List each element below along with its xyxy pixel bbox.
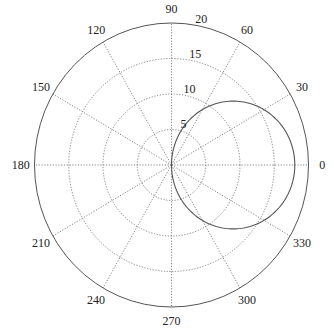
angle-tick-label: 270 — [163, 314, 181, 328]
angle-tick-label: 60 — [241, 23, 253, 37]
angle-tick-label: 90 — [166, 2, 178, 16]
angle-tick-label: 150 — [32, 80, 50, 94]
angle-tick-label: 240 — [87, 293, 105, 307]
angle-tick-label: 210 — [32, 236, 50, 250]
angular-grid-spoke — [172, 165, 241, 288]
angular-grid-spoke — [172, 42, 241, 165]
angle-tick-label: 0 — [319, 158, 325, 172]
angle-tick-label: 120 — [87, 23, 105, 37]
radial-tick-label: 5 — [180, 117, 186, 131]
radial-tick-label: 10 — [183, 82, 195, 96]
angle-tick-label: 300 — [238, 293, 256, 307]
radial-tick-label: 20 — [195, 12, 207, 26]
angular-grid-spoke — [103, 42, 172, 165]
angular-grid-spoke — [53, 165, 172, 236]
angle-tick-label: 330 — [293, 236, 311, 250]
angular-grid-spoke — [103, 165, 172, 288]
angle-tick-label: 30 — [296, 80, 308, 94]
polar-chart: 03060901201501802102402703003305101520 — [0, 0, 334, 332]
radial-tick-label: 15 — [189, 47, 201, 61]
angle-tick-label: 180 — [12, 158, 30, 172]
